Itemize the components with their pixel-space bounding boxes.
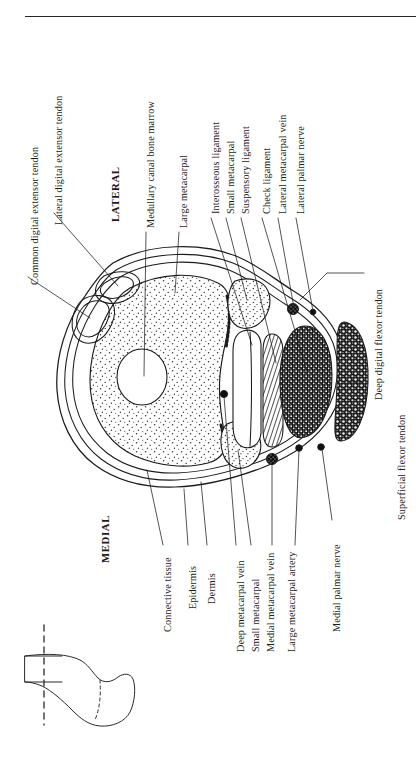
label-deep-digital-flexor-tendon: Deep digital flexor tendon xyxy=(374,289,384,400)
label-lateral-digital-extensor-tendon: Lateral digital extensor tendon xyxy=(54,96,64,225)
leader-epidermis xyxy=(184,489,188,545)
label-dermis: Dermis xyxy=(207,573,217,604)
label-medial-metacarpal-vein: Medial metacarpal vein xyxy=(266,553,276,652)
leader-medial-palmar-nerve xyxy=(322,449,332,520)
label-medial-orientation: MEDIAL xyxy=(100,515,111,563)
label-lateral-palmar-nerve: Lateral palmar nerve xyxy=(296,126,306,214)
label-check-ligament: Check ligament xyxy=(262,148,272,214)
label-medullary-canal-bone-marrow: Medullary canal bone marrow xyxy=(146,101,156,228)
label-small-metacarpal-upper: Small metacarpal xyxy=(226,141,236,214)
label-small-metacarpal-lower: Small metacarpal xyxy=(251,579,261,652)
leader-deep-digital-flexor-tendon xyxy=(300,273,364,300)
medullary-canal xyxy=(117,349,167,405)
label-large-metacarpal: Large metacarpal xyxy=(179,155,189,228)
label-large-metacarpal-artery: Large metacarpal artery xyxy=(287,551,297,652)
label-lateral-orientation: LATERAL xyxy=(110,166,121,222)
leader-large-metacarpal-artery xyxy=(295,450,299,545)
small-metacarpal-lateral xyxy=(228,279,270,329)
inset-limb-outline xyxy=(25,654,135,726)
leader-lateral-palmar-nerve xyxy=(296,218,313,311)
superficial-flexor-tendon-shape xyxy=(335,322,368,441)
leader-dermis xyxy=(201,482,207,545)
suspensory-ligament-shape xyxy=(233,330,261,448)
label-suspensory-ligament: Suspensory ligament xyxy=(241,126,251,214)
figure-page: Common digital extensor tendon Lateral d… xyxy=(0,0,416,757)
label-epidermis: Epidermis xyxy=(188,566,198,609)
label-interosseous-ligament: Interosseous ligament xyxy=(211,122,221,214)
lateral-metacarpal-vein-dot xyxy=(287,303,298,314)
label-medial-palmar-nerve: Medial palmar nerve xyxy=(332,544,342,632)
label-common-digital-extensor-tendon: Common digital extensor tendon xyxy=(30,147,40,285)
medial-palmar-nerve-dot xyxy=(318,444,325,451)
limb-orientation-inset xyxy=(25,625,135,726)
label-superficial-flexor-tendon: Superficial flexor tendon xyxy=(397,414,407,520)
label-connective-tissue: Connective tissue xyxy=(163,557,173,632)
inset-hoof-wall-line xyxy=(95,680,100,720)
label-deep-metacarpal-vein: Deep metacarpal vein xyxy=(236,560,246,652)
leader-connective-tissue xyxy=(147,470,163,545)
deep-digital-flexor-tendon-shape xyxy=(280,326,332,438)
label-lateral-metacarpal-vein: Lateral metacarpal vein xyxy=(278,114,288,214)
